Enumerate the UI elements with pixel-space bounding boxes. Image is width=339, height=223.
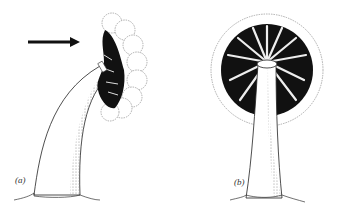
panel-b-label: (b) bbox=[234, 177, 245, 187]
panel-a-label: (a) bbox=[15, 175, 26, 185]
panel-a bbox=[14, 13, 147, 200]
figure-illustration: (a) (b) bbox=[0, 0, 339, 223]
panel-b bbox=[211, 14, 323, 202]
arrow-icon bbox=[28, 37, 80, 47]
